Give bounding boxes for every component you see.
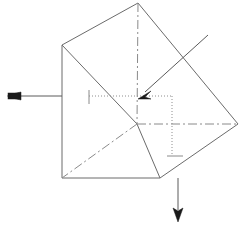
diagram-canvas [0,0,247,231]
axis-vertical-centerline [137,3,138,124]
left-load-arrow-tail-block [8,93,19,99]
edge-left-upper-to-center [62,45,137,124]
isometric-cube-diagram [0,0,247,231]
projection-guides [89,96,172,156]
bottom-load-arrow [173,178,183,222]
cube-hidden-axes [62,3,238,178]
left-load-arrow [8,92,62,100]
diagonal-load-arrow-shaft [145,35,208,92]
cube-solid-edges [62,3,238,178]
bottom-load-arrow-head [173,208,183,222]
edge-center-to-right-lower [137,124,160,178]
edge-top-to-right-mid [138,3,238,124]
edge-top-to-left-upper [62,3,138,45]
diagonal-load-arrow-head [138,91,151,99]
axis-diagonal-centerline [62,124,137,178]
